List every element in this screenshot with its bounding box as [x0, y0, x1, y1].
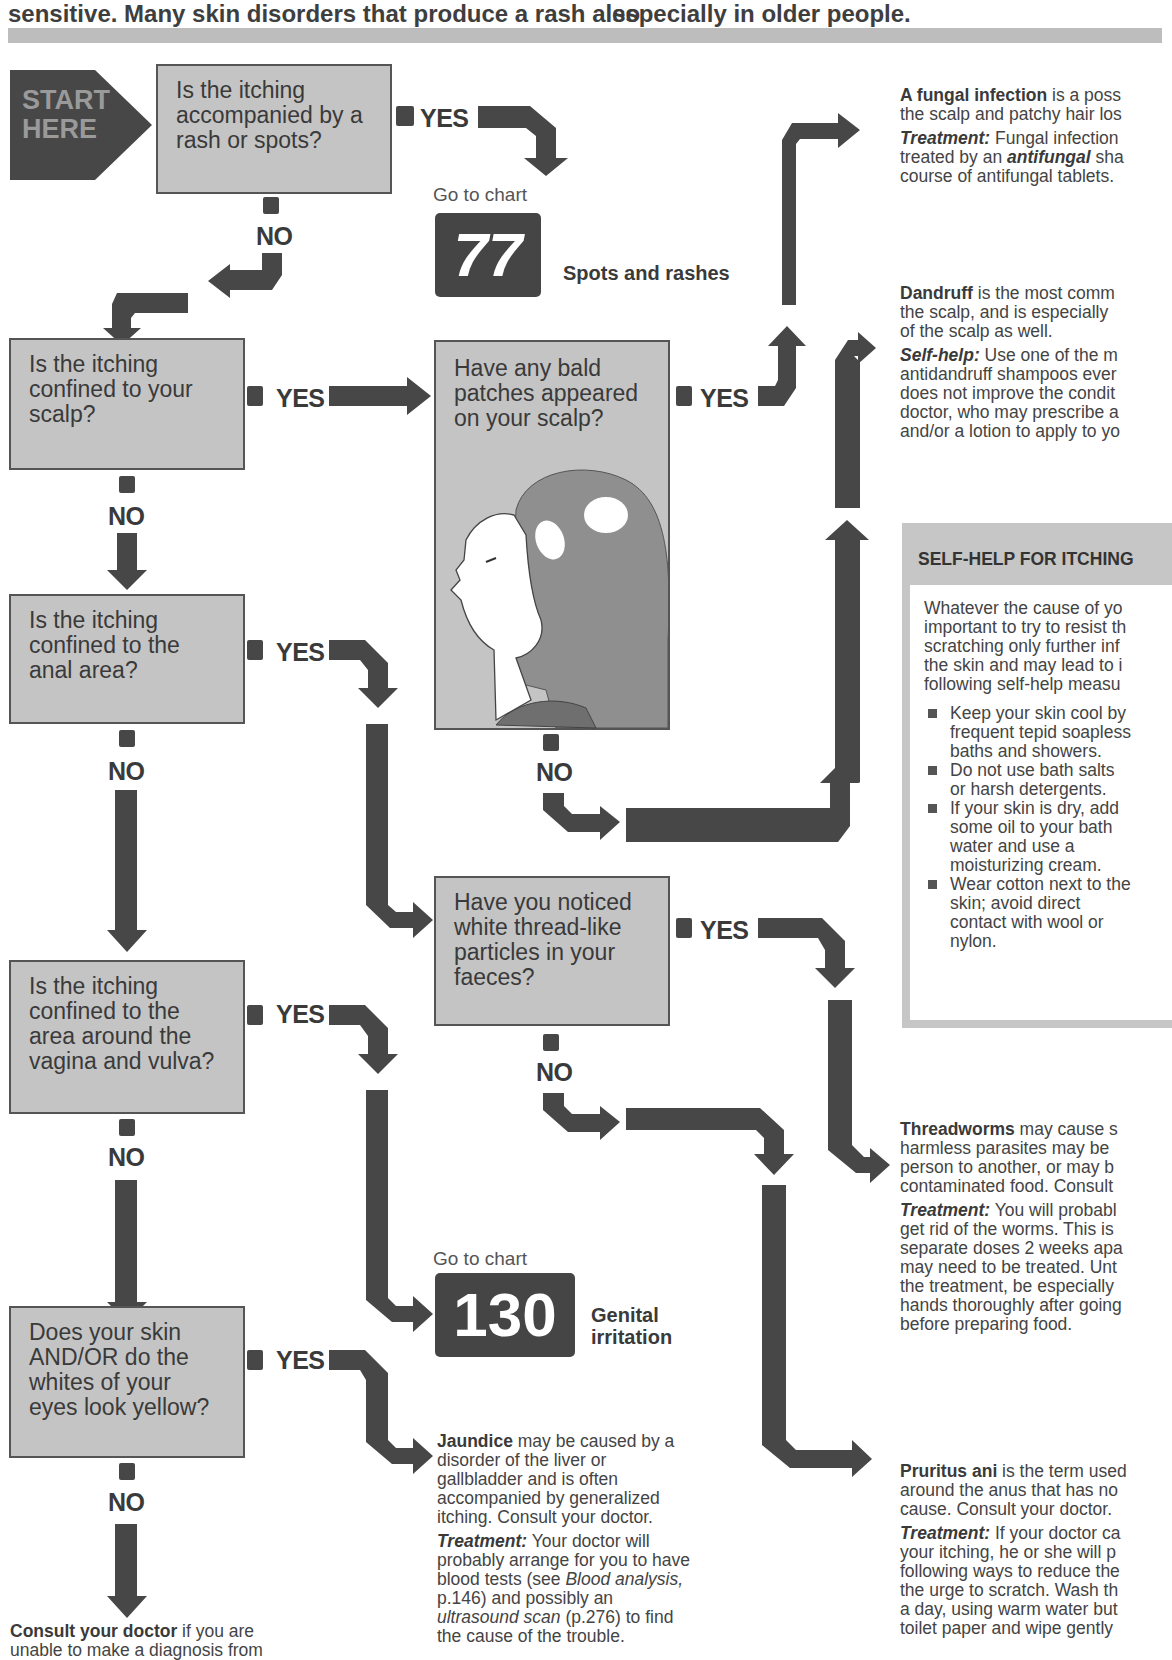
go-to-chart-label-130: Go to chart: [433, 1248, 527, 1270]
selfhelp-label: Self-help:: [900, 345, 980, 365]
question-rash-or-spots[interactable]: Is the itching accompanied by a rash or …: [156, 64, 392, 194]
outcome-text: the cause of the trouble.: [437, 1627, 690, 1646]
outcome-text: antidandruff shampoos ever: [900, 365, 1120, 384]
outcome-text: doctor, who may prescribe a: [900, 403, 1120, 422]
ultrasound-scan-reference[interactable]: ultrasound scan: [437, 1607, 561, 1627]
outcome-text: is a poss: [1047, 85, 1121, 105]
outcome-text: toilet paper and wipe gently: [900, 1619, 1127, 1638]
outcome-text: treated by an: [900, 147, 1007, 167]
outcome-title: Threadworms: [900, 1119, 1015, 1139]
no-label-q7: NO: [108, 1488, 145, 1517]
outcome-text: get rid of the worms. This is: [900, 1220, 1123, 1239]
outcome-text: Your doctor will: [527, 1531, 650, 1551]
outcome-text: the scalp, and is especially: [900, 303, 1120, 322]
outcome-fungal-infection: A fungal infection is a poss the scalp a…: [900, 86, 1124, 186]
blood-analysis-reference[interactable]: Blood analysis,: [565, 1569, 683, 1589]
treatment-label: Treatment:: [900, 1523, 990, 1543]
question-text: Is the itching confined to your scalp?: [29, 351, 193, 427]
question-text: Is the itching confined to the area arou…: [29, 973, 214, 1074]
outcome-text: unable to make a diagnosis from: [10, 1641, 263, 1660]
self-help-intro: Whatever the cause of yo: [924, 599, 1172, 618]
outcome-consult-doctor: Consult your doctor if you are unable to…: [10, 1622, 263, 1660]
question-yellow-skin-eyes[interactable]: Does your skin AND/OR do the whites of y…: [9, 1306, 245, 1458]
no-label-q1: NO: [256, 222, 293, 251]
self-help-item: Do not use bath salts or harsh detergent…: [924, 761, 1134, 799]
outcome-text: (p.276) to find: [561, 1607, 674, 1627]
self-help-for-itching-box: SELF-HELP FOR ITCHING Whatever the cause…: [902, 523, 1172, 1028]
outcome-title: Pruritus ani: [900, 1461, 997, 1481]
outcome-text: p.146) and possibly an: [437, 1589, 690, 1608]
chart-ref-130[interactable]: 130: [435, 1273, 575, 1357]
outcome-threadworms: Threadworms may cause s harmless parasit…: [900, 1120, 1123, 1334]
outcome-text: may be caused by a: [513, 1431, 674, 1451]
outcome-text: probably arrange for you to have: [437, 1551, 690, 1570]
outcome-text: the treatment, be especially: [900, 1277, 1123, 1296]
yes-label-q4: YES: [276, 638, 325, 667]
no-label-q2: NO: [108, 502, 145, 531]
outcome-text: if you are: [177, 1621, 254, 1641]
question-thread-like-particles[interactable]: Have you noticed white thread-like parti…: [434, 876, 670, 1026]
outcome-text: harmless parasites may be: [900, 1139, 1123, 1158]
start-here-label: START HERE: [22, 86, 110, 144]
no-label-q3: NO: [536, 758, 573, 787]
chart-ref-130-label-line2: irritation: [591, 1326, 672, 1348]
chart-ref-77-label[interactable]: Spots and rashes: [563, 262, 730, 284]
woman-profile-illustration: [436, 440, 668, 730]
self-help-box-content: Whatever the cause of yo important to tr…: [910, 585, 1172, 1020]
question-text: Does your skin AND/OR do the whites of y…: [29, 1319, 209, 1420]
self-help-box-title: SELF-HELP FOR ITCHING: [918, 549, 1134, 570]
question-vagina-vulva[interactable]: Is the itching confined to the area arou…: [9, 960, 245, 1114]
question-text: Is the itching confined to the anal area…: [29, 607, 180, 683]
outcome-text: may cause s: [1015, 1119, 1118, 1139]
yes-label-q1: YES: [420, 104, 469, 133]
outcome-text: sha: [1091, 147, 1124, 167]
question-bald-patches[interactable]: Have any bald patches appeared on your s…: [434, 340, 670, 730]
no-label-q6: NO: [108, 1143, 145, 1172]
outcome-text: is the most comm: [973, 283, 1115, 303]
yes-label-q6: YES: [276, 1000, 325, 1029]
outcome-text: and/or a lotion to apply to yo: [900, 422, 1120, 441]
no-label-q4: NO: [108, 757, 145, 786]
start-label-line2: HERE: [22, 115, 110, 144]
outcome-text: does not improve the condit: [900, 384, 1120, 403]
outcome-text: Use one of the m: [980, 345, 1118, 365]
chart-ref-77[interactable]: 77: [435, 213, 541, 297]
self-help-intro: scratching only further inf: [924, 637, 1172, 656]
question-scalp[interactable]: Is the itching confined to your scalp?: [9, 338, 245, 470]
no-label-q5: NO: [536, 1058, 573, 1087]
start-label-line1: START: [22, 86, 110, 115]
outcome-text: a day, using warm water but: [900, 1600, 1127, 1619]
self-help-item: Wear cotton next to the skin; avoid dire…: [924, 875, 1134, 951]
outcome-text: is the term used: [997, 1461, 1126, 1481]
outcome-text: person to another, or may b: [900, 1158, 1123, 1177]
outcome-text: contaminated food. Consult: [900, 1177, 1123, 1196]
outcome-title: Dandruff: [900, 283, 973, 303]
self-help-intro: important to try to resist th: [924, 618, 1172, 637]
treatment-label: Treatment:: [437, 1531, 527, 1551]
outcome-text: of the scalp as well.: [900, 322, 1120, 341]
outcome-text: blood tests (see: [437, 1569, 565, 1589]
outcome-text: cause. Consult your doctor.: [900, 1500, 1127, 1519]
question-text: Have any bald patches appeared on your s…: [454, 355, 638, 431]
outcome-text: If your doctor ca: [990, 1523, 1120, 1543]
question-text: Have you noticed white thread-like parti…: [454, 889, 632, 990]
self-help-intro: following self-help measu: [924, 675, 1172, 694]
outcome-text: disorder of the liver or: [437, 1451, 690, 1470]
self-help-item: If your skin is dry, add some oil to you…: [924, 799, 1134, 875]
question-anal-area[interactable]: Is the itching confined to the anal area…: [9, 594, 245, 724]
outcome-text: Fungal infection: [990, 128, 1118, 148]
bald-patch-2: [584, 497, 628, 533]
outcome-text: gallbladder and is often: [437, 1470, 690, 1489]
self-help-list: Keep your skin cool by frequent tepid so…: [924, 704, 1134, 951]
chart-ref-130-label-line1: Genital: [591, 1304, 672, 1326]
outcome-text: may need to be treated. Unt: [900, 1258, 1123, 1277]
outcome-dandruff: Dandruff is the most comm the scalp, and…: [900, 284, 1120, 441]
outcome-text: the scalp and patchy hair los: [900, 105, 1124, 124]
outcome-text: your itching, he or she will p: [900, 1543, 1127, 1562]
outcome-text: following ways to reduce the: [900, 1562, 1127, 1581]
chart-ref-130-label[interactable]: Genital irritation: [591, 1304, 672, 1348]
self-help-intro: the skin and may lead to i: [924, 656, 1172, 675]
outcome-jaundice: Jaundice may be caused by a disorder of …: [437, 1432, 690, 1646]
outcome-text: accompanied by generalized: [437, 1489, 690, 1508]
outcome-text: hands thoroughly after going: [900, 1296, 1123, 1315]
